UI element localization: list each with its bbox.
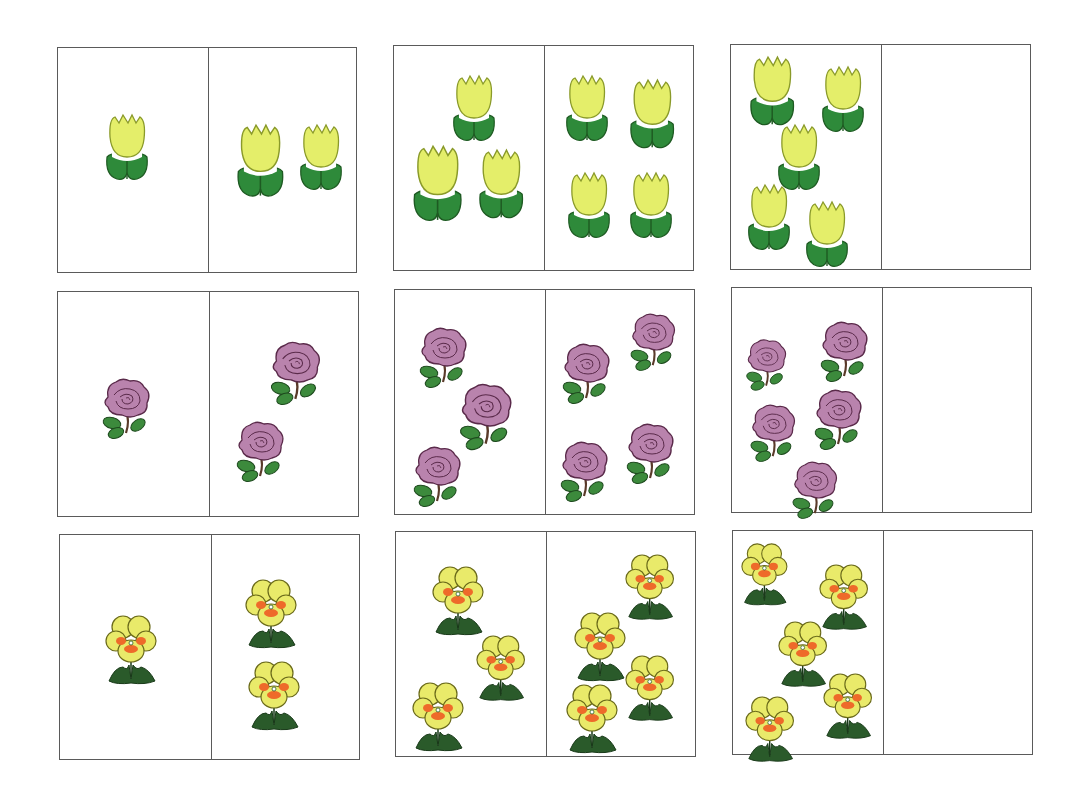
rose-icon bbox=[558, 440, 614, 502]
left-panel-count-5 bbox=[731, 45, 881, 269]
left-panel-count-1 bbox=[58, 48, 208, 272]
rose-icon bbox=[748, 403, 801, 462]
rose-icon bbox=[812, 388, 868, 450]
card-rose-1-2 bbox=[57, 291, 359, 517]
pansy-icon bbox=[745, 696, 794, 763]
rose-icon bbox=[818, 320, 874, 382]
tulip-icon bbox=[410, 144, 465, 225]
right-panel-count-2 bbox=[211, 535, 359, 759]
card-pansy-5-blank bbox=[732, 530, 1033, 755]
pansy-icon bbox=[248, 661, 300, 731]
pansy-icon bbox=[625, 554, 674, 621]
pansy-icon bbox=[245, 579, 297, 649]
right-panel-count-4 bbox=[546, 532, 695, 756]
tulip-icon bbox=[803, 200, 851, 270]
tulip-icon bbox=[450, 74, 498, 144]
tulip-icon bbox=[234, 123, 287, 200]
rose-icon bbox=[628, 312, 681, 371]
pansy-icon bbox=[625, 655, 674, 722]
right-panel-count-0 bbox=[882, 288, 1031, 512]
card-pansy-1-2 bbox=[59, 534, 360, 760]
card-rose-5-blank bbox=[731, 287, 1032, 513]
rose-icon bbox=[744, 338, 792, 391]
tulip-icon bbox=[297, 123, 345, 193]
tulip-icon bbox=[627, 78, 677, 152]
card-tulip-3-4 bbox=[393, 45, 694, 271]
tulip-icon bbox=[745, 183, 793, 253]
tulip-icon bbox=[563, 74, 611, 144]
pansy-icon bbox=[432, 566, 484, 636]
pansy-icon bbox=[105, 615, 157, 685]
left-panel-count-1 bbox=[58, 292, 209, 516]
pansy-icon bbox=[476, 635, 525, 702]
card-tulip-1-2 bbox=[57, 47, 357, 273]
rose-icon bbox=[457, 382, 519, 450]
right-panel-count-2 bbox=[209, 292, 358, 516]
rose-icon bbox=[417, 326, 473, 388]
rose-icon bbox=[411, 445, 467, 507]
right-panel-count-4 bbox=[544, 46, 693, 270]
card-rose-3-4 bbox=[394, 289, 695, 515]
tulip-icon bbox=[565, 171, 613, 241]
tulip-icon bbox=[476, 148, 526, 222]
right-panel-count-2 bbox=[208, 48, 356, 272]
tulip-icon bbox=[627, 171, 675, 241]
pansy-icon bbox=[741, 543, 788, 606]
pansy-icon bbox=[778, 621, 827, 688]
rose-icon bbox=[624, 422, 680, 484]
left-panel-count-3 bbox=[395, 290, 545, 514]
card-pansy-3-4 bbox=[395, 531, 696, 757]
tulip-icon bbox=[747, 55, 797, 129]
right-panel-count-0 bbox=[883, 531, 1032, 754]
left-panel-count-1 bbox=[60, 535, 211, 759]
rose-icon bbox=[790, 460, 843, 519]
rose-icon bbox=[560, 342, 616, 404]
pansy-icon bbox=[574, 612, 626, 682]
left-panel-count-3 bbox=[396, 532, 546, 756]
pansy-icon bbox=[823, 673, 872, 740]
left-panel-count-3 bbox=[394, 46, 544, 270]
rose-icon bbox=[268, 340, 327, 405]
rose-icon bbox=[234, 420, 290, 482]
right-panel-count-0 bbox=[881, 45, 1030, 269]
pansy-icon bbox=[412, 682, 464, 752]
right-panel-count-4 bbox=[545, 290, 694, 514]
tulip-icon bbox=[103, 113, 151, 183]
pansy-icon bbox=[566, 684, 618, 754]
card-tulip-5-blank bbox=[730, 44, 1031, 270]
tulip-icon bbox=[819, 65, 867, 135]
left-panel-count-5 bbox=[732, 288, 882, 512]
left-panel-count-5 bbox=[733, 531, 883, 754]
rose-icon bbox=[100, 377, 156, 439]
